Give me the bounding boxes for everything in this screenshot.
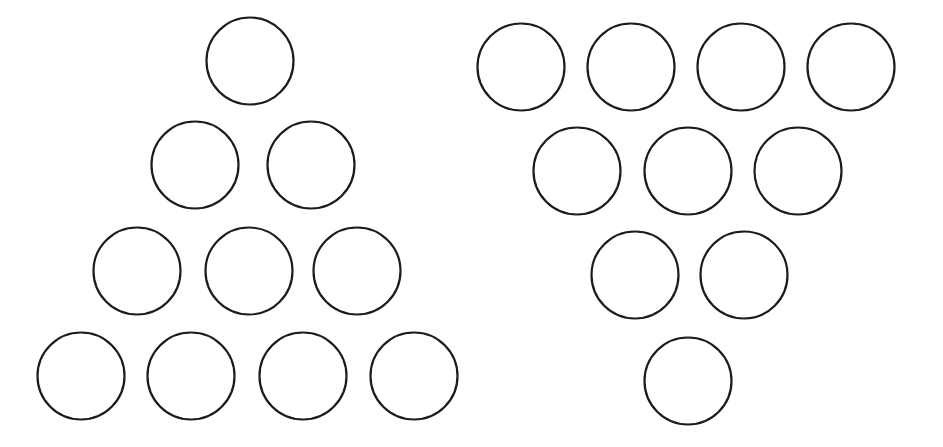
circle-arrangement-diagram <box>0 0 943 447</box>
diagram-canvas <box>0 0 943 447</box>
canvas-background <box>0 0 943 447</box>
